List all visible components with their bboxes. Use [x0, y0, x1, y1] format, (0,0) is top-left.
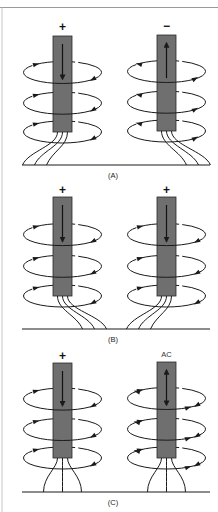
field-arrow-icon — [191, 135, 199, 142]
field-arrow-icon — [193, 238, 201, 245]
lead-wire — [58, 296, 83, 329]
electrode-left — [23, 36, 102, 165]
electrode-left — [24, 197, 107, 329]
field-arrow-icon — [193, 270, 201, 277]
field-arrow-icon — [89, 76, 97, 83]
polarity-label-c-left: + — [59, 349, 66, 363]
field-arrow-icon — [33, 121, 40, 127]
field-arrow-icon — [193, 299, 201, 306]
field-arrow-icon — [33, 388, 40, 394]
field-arrow-icon — [33, 61, 40, 67]
lead-wire — [148, 458, 162, 492]
field-arrow-icon — [33, 224, 40, 230]
panel-label-b: (B) — [108, 335, 119, 344]
field-arrow-icon — [33, 447, 40, 453]
field-arrow-icon — [89, 270, 97, 277]
field-arrow-icon — [33, 255, 40, 261]
field-arrow-icon — [89, 402, 97, 409]
lead-wire — [162, 131, 187, 165]
field-arrow-icon — [137, 224, 144, 230]
lead-wire — [172, 131, 211, 165]
field-arrow-icon — [33, 92, 40, 98]
field-arrow-icon — [89, 135, 97, 142]
lead-wire — [172, 458, 186, 492]
field-arrow-icon — [89, 299, 97, 306]
lead-wire — [47, 132, 68, 165]
lead-wire — [35, 132, 63, 165]
field-arrow-icon — [191, 75, 199, 82]
field-arrow-icon — [137, 255, 144, 261]
electrode-right — [128, 362, 206, 492]
field-arrow-icon — [89, 238, 97, 245]
polarity-label-b-left: + — [59, 183, 66, 197]
field-arrow-icon — [33, 418, 40, 424]
field-arrow-icon — [191, 106, 199, 113]
polarity-label-a-right: − — [163, 19, 170, 33]
panel-c — [22, 362, 210, 492]
field-arrow-icon — [193, 433, 201, 440]
field-arrow-icon — [89, 107, 97, 114]
field-arrow-icon — [193, 402, 201, 409]
lead-wire — [68, 296, 107, 329]
lead-wire — [44, 458, 58, 492]
panel-label-c: (C) — [108, 498, 119, 507]
lead-wire — [151, 296, 172, 329]
field-arrow-icon — [193, 461, 201, 468]
panel-a — [22, 35, 211, 165]
lead-wire — [139, 296, 167, 329]
field-arrow-icon — [33, 285, 40, 291]
field-arrow-icon — [89, 433, 97, 440]
field-arrow-icon — [89, 461, 97, 468]
polarity-label-c-right: AC — [161, 350, 172, 359]
polarity-label-a-left: + — [59, 20, 66, 34]
field-arrow-icon — [137, 285, 144, 291]
polarity-label-b-right: + — [163, 183, 170, 197]
panel-b — [22, 197, 210, 329]
electrode-magnetic-field-diagram: (A) (B) (C) + − + + + AC — [0, 0, 218, 512]
electrode-right — [128, 35, 211, 165]
lead-wire — [68, 458, 82, 492]
panel-label-a: (A) — [108, 171, 119, 180]
electrode-right — [127, 197, 206, 329]
electrode-left — [24, 363, 102, 492]
